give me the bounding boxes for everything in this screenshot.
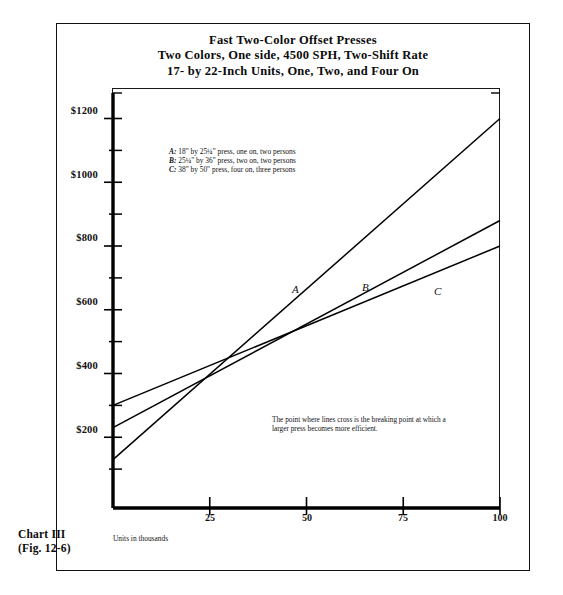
y-tick-label-400: $400 xyxy=(52,360,98,371)
legend-item-a: A: 18" by 25¼" press, one on, two person… xyxy=(169,147,296,156)
legend-item-b: B: 25¼" by 36" press, two on, two person… xyxy=(169,156,296,165)
legend-item-c: C: 38" by 50" press, four on, three pers… xyxy=(169,165,296,174)
legend-text-c: 38" by 50" press, four on, three persons xyxy=(176,165,295,174)
y-tick-label-1000: $1000 xyxy=(52,169,98,180)
curve-label-c: C xyxy=(434,285,441,297)
y-tick-label-1200: $1200 xyxy=(52,105,98,116)
y-tick-label-800: $800 xyxy=(52,232,98,243)
chart-caption-line-2: (Fig. 12-6) xyxy=(18,541,71,555)
legend: A: 18" by 25¼" press, one on, two person… xyxy=(169,147,296,175)
x-axis-caption: Units in thousands xyxy=(113,534,168,543)
chart-plot xyxy=(56,23,530,571)
y-tick-label-200: $200 xyxy=(52,424,98,435)
chart-caption: Chart III (Fig. 12-6) xyxy=(18,527,71,555)
y-tick-label-600: $600 xyxy=(52,296,98,307)
series-line-b xyxy=(113,221,500,428)
x-tick-label-25: 25 xyxy=(193,512,227,523)
breaking-point-note: The point where lines cross is the break… xyxy=(272,415,458,434)
curve-label-b: B xyxy=(362,281,369,293)
x-axis-major-ticks xyxy=(210,497,500,515)
series-line-c xyxy=(113,246,500,405)
legend-text-b: 25¼" by 36" press, two on, two persons xyxy=(176,156,296,165)
x-tick-label-75: 75 xyxy=(386,512,420,523)
legend-text-a: 18" by 25¼" press, one on, two persons xyxy=(176,147,295,156)
chart-caption-line-1: Chart III xyxy=(18,527,71,541)
x-tick-label-50: 50 xyxy=(290,512,324,523)
x-tick-label-100: 100 xyxy=(483,512,517,523)
curve-label-a: A xyxy=(292,283,299,295)
